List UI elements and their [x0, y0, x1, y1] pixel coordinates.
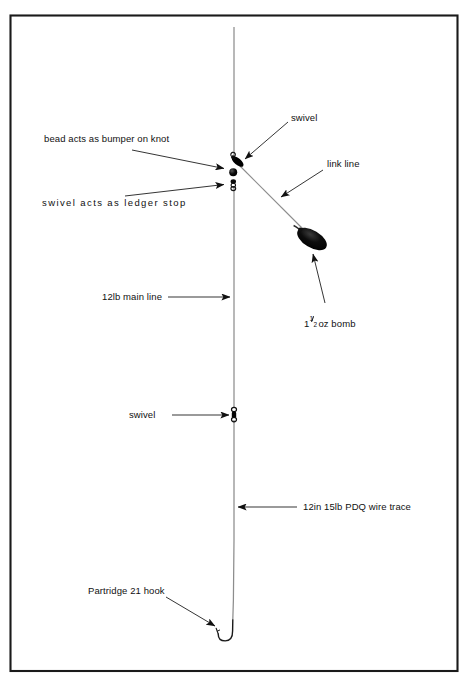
- bomb-icon: [293, 223, 330, 255]
- leader-ledger-stop: [125, 185, 224, 197]
- leader-hook: [166, 597, 215, 626]
- label-bead-bumper: bead acts as bumper on knot: [44, 133, 169, 145]
- rig-illustration: [0, 0, 469, 686]
- wire-trace-line: [233, 420, 234, 620]
- fraction-one-half: 12: [309, 315, 318, 327]
- leader-bead-bumper: [132, 150, 224, 169]
- ledger-stop-swivel-icon: [231, 179, 236, 190]
- label-hook: Partridge 21 hook: [88, 585, 165, 597]
- leader-link-line: [281, 170, 323, 197]
- label-swivel-top: swivel: [291, 112, 317, 124]
- leader-top-swivel: [245, 122, 288, 159]
- top-swivel-icon: [230, 152, 245, 168]
- mid-swivel-icon: [232, 407, 237, 422]
- label-link-line: link line: [327, 158, 360, 170]
- fraction-denominator: 2: [314, 319, 318, 331]
- hook-icon: [216, 620, 233, 641]
- label-bomb-unit: oz bomb: [318, 318, 355, 329]
- label-main-line: 12lb main line: [102, 291, 162, 303]
- label-swivel-ledger-stop: swivel acts as ledger stop: [42, 197, 187, 209]
- label-bomb: 112oz bomb: [304, 315, 356, 330]
- bead-icon: [229, 168, 237, 176]
- link-line-segment: [239, 165, 305, 231]
- label-wire-trace: 12in 15lb PDQ wire trace: [303, 501, 411, 513]
- label-swivel-mid: swivel: [129, 409, 155, 421]
- rig-diagram: bead acts as bumper on knot swivel acts …: [0, 0, 469, 686]
- leader-bomb: [313, 254, 325, 303]
